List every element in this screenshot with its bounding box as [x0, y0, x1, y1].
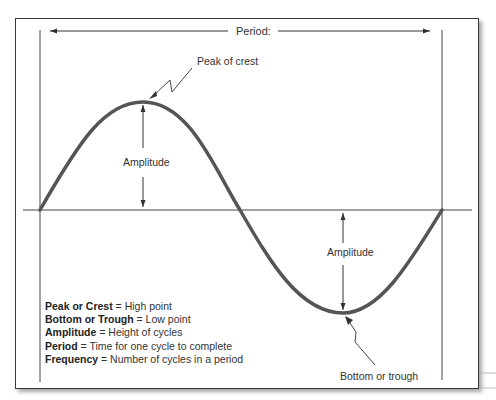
- period-label: Period:: [236, 25, 271, 37]
- legend-item: Peak or Crest = High point: [45, 300, 243, 313]
- amplitude-label-bottom: Amplitude: [327, 246, 374, 258]
- legend-item: Period = Time for one cycle to complete: [45, 340, 243, 353]
- legend-item: Frequency = Number of cycles in a period: [45, 353, 243, 366]
- legend-item: Amplitude = Height of cycles: [45, 326, 243, 339]
- definitions-legend: Peak or Crest = High point Bottom or Tro…: [45, 300, 243, 366]
- trough-label: Bottom or trough: [340, 370, 418, 382]
- sine-curve: [40, 102, 442, 313]
- amplitude-label-top: Amplitude: [123, 156, 170, 168]
- peak-label: Peak of crest: [197, 55, 258, 67]
- legend-item: Bottom or Trough = Low point: [45, 313, 243, 326]
- wave-diagram: Period: Peak of crest Amplitude Amplitud…: [0, 0, 496, 400]
